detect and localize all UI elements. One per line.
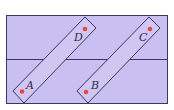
point-d-dot	[83, 27, 88, 32]
point-d-label: D	[73, 31, 83, 44]
diagram-canvas: A B C D	[0, 0, 174, 110]
diagram: A B C D	[0, 0, 174, 110]
point-a-label: A	[25, 79, 34, 92]
point-a-dot	[20, 89, 25, 94]
point-b-dot	[84, 90, 89, 95]
point-c-label: C	[139, 31, 148, 44]
point-b-label: B	[90, 79, 99, 92]
point-c-dot	[148, 27, 153, 32]
